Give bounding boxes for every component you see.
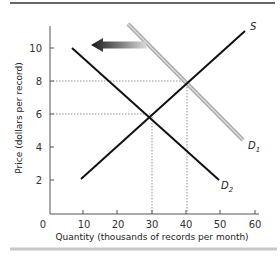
x-tick-label: 50 [214, 219, 227, 230]
y-tick-label: 2 [36, 175, 42, 186]
y-tick-label: 8 [36, 76, 42, 87]
d2-label: D2 [221, 180, 234, 194]
x-tick-label: 0 [40, 219, 46, 230]
y-axis-title: Price (dollars per record) [14, 62, 24, 173]
y-tick-label: 4 [36, 142, 42, 153]
supply-label: S [250, 21, 257, 32]
demand-shift-arrow [91, 38, 147, 52]
x-tick-label: 10 [78, 219, 91, 230]
supply-demand-chart: 10 8 6 4 2 0 10 20 30 40 50 60 Price (do… [0, 0, 280, 257]
y-tick-label: 10 [29, 43, 42, 54]
d1-label: D1 [248, 140, 260, 154]
x-tick-label: 40 [180, 219, 193, 230]
x-ticks: 0 10 20 30 40 50 60 [40, 210, 262, 230]
x-axis-title: Quantity (thousands of records per month… [55, 232, 248, 242]
supply-curve [81, 31, 245, 179]
demand-curve-d2 [72, 48, 219, 180]
demand-curve-d1 [128, 24, 243, 140]
x-tick-label: 60 [249, 219, 262, 230]
x-tick-label: 30 [146, 219, 159, 230]
y-tick-label: 6 [36, 109, 42, 120]
x-tick-label: 20 [112, 219, 125, 230]
